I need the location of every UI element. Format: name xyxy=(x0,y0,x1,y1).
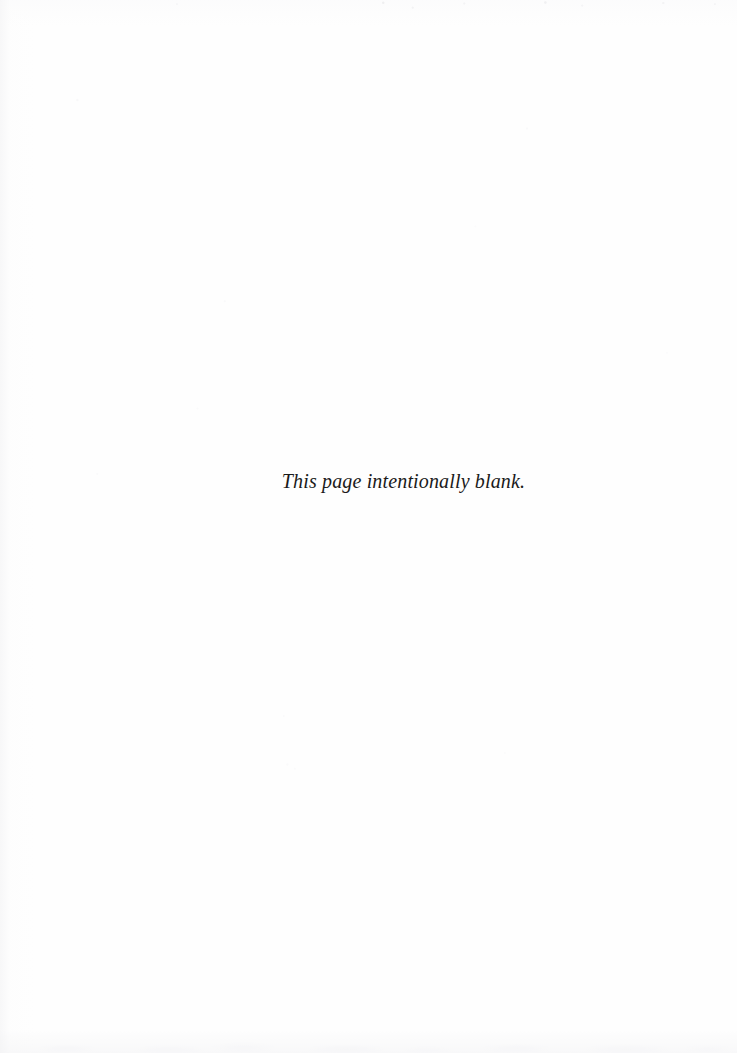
scanned-page: This page intentionally blank. xyxy=(0,0,737,1053)
scan-smudge-bottom-edge xyxy=(0,1019,737,1053)
scan-speckle-top-edge xyxy=(0,0,737,14)
scan-dust-specks xyxy=(0,0,737,1053)
intentionally-blank-notice: This page intentionally blank. xyxy=(0,468,737,494)
